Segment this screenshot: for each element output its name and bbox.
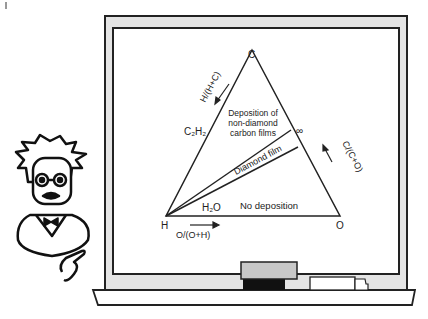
region-upper-1: Deposition of: [228, 108, 278, 118]
vertex-c: C: [248, 49, 255, 60]
vertex-o: O: [336, 220, 344, 231]
region-upper-2: non-diamond: [228, 118, 278, 128]
label-h2o: H₂O: [202, 202, 221, 213]
chalk-icon: [310, 277, 368, 290]
scene: C H O H/(H+C) C/(C+O) O/(O+H) C₂H₂ H₂O ∞…: [0, 0, 428, 319]
label-c2h2: C₂H₂: [184, 126, 206, 137]
region-lower: No deposition: [240, 200, 298, 211]
axis-bottom: O/(O+H): [176, 230, 210, 240]
mustache: [43, 193, 59, 199]
vertex-h: H: [161, 220, 168, 231]
pointing-hand-icon: [61, 251, 85, 281]
professor-cartoon: [16, 135, 89, 280]
label-infinity: ∞: [296, 125, 303, 136]
chalk-tray: [93, 290, 415, 305]
region-upper-3: carbon films: [230, 128, 276, 138]
